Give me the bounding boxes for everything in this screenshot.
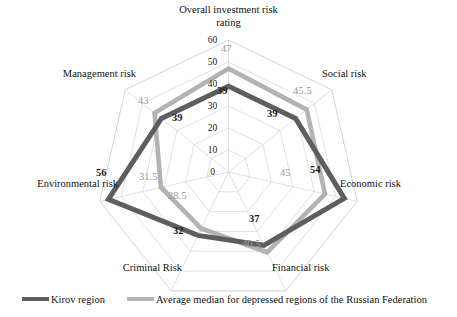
data-label-average-median-3: 40.5 xyxy=(242,238,260,249)
axis-label-environmental-risk: Environmental risk xyxy=(37,178,118,191)
axis-label-line-2: rating xyxy=(149,17,309,30)
axis-label-social-risk: Social risk xyxy=(322,68,367,81)
axis-label-financial-risk: Financial risk xyxy=(272,262,329,275)
data-label-kirov-3: 37 xyxy=(249,213,260,224)
legend-entry-average-median: Average median for depressed regions of … xyxy=(127,294,427,305)
data-label-kirov-5: 56 xyxy=(96,167,107,178)
data-label-kirov-4: 32 xyxy=(173,225,184,236)
legend-swatch-average-median xyxy=(127,297,154,301)
data-label-average-median-4: 28.5 xyxy=(168,190,186,201)
axis-label-overall-investment-risk-rating: Overall investment riskrating xyxy=(149,4,309,29)
data-label-average-median-5: 31.5 xyxy=(139,171,157,182)
data-label-average-median-0: 47 xyxy=(221,43,232,54)
radar-chart: 0102030405060 Overall investment riskrat… xyxy=(0,0,457,317)
data-label-kirov-2: 54 xyxy=(310,164,321,175)
radial-tick-label: 50 xyxy=(208,57,218,67)
data-label-kirov-1: 39 xyxy=(267,108,278,119)
radial-tick-label: 60 xyxy=(208,35,218,45)
radial-tick-label: 0 xyxy=(210,167,215,177)
radial-tick-label: 30 xyxy=(208,101,218,111)
radial-tick-label: 10 xyxy=(208,145,218,155)
axis-label-line-1: Overall investment risk xyxy=(149,4,309,17)
data-label-average-median-6: 43 xyxy=(138,95,149,106)
legend-swatch-kirov-region xyxy=(22,297,49,301)
data-label-average-median-2: 45 xyxy=(280,167,291,178)
data-label-kirov-0: 39 xyxy=(217,85,228,96)
legend-label-average-median: Average median for depressed regions of … xyxy=(156,294,427,305)
legend-entry-kirov-region: Kirov region xyxy=(22,294,105,305)
axis-label-criminal-risk: Criminal Risk xyxy=(123,262,182,275)
axis-label-economic-risk: Economic risk xyxy=(340,178,401,191)
chart-legend: Kirov region Average median for depresse… xyxy=(0,288,457,310)
axis-label-management-risk: Management risk xyxy=(63,68,136,81)
radial-tick-label: 20 xyxy=(208,123,218,133)
data-label-kirov-6: 39 xyxy=(172,112,183,123)
data-label-average-median-1: 45.5 xyxy=(293,85,311,96)
legend-label-kirov-region: Kirov region xyxy=(51,294,105,305)
